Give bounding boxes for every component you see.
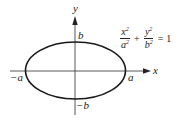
y-intercept-positive-label: b [78, 30, 84, 41]
y-intercept-negative-label: −b [76, 100, 89, 111]
x-term-fraction: x2 a2 [120, 27, 130, 50]
x-axis-label: x [153, 65, 158, 76]
y-term-fraction: y2 b2 [144, 27, 154, 50]
ellipse-curve [26, 42, 126, 99]
ellipse-equation: x2 a2 + y2 b2 = 1 [119, 27, 174, 50]
y-term-numerator: y2 [144, 27, 153, 39]
x-axis-arrow-icon [143, 68, 151, 73]
plus-sign: + [134, 34, 140, 44]
y-axis-label: y [73, 3, 78, 14]
x-term-denominator: a2 [120, 39, 130, 50]
y-term-denominator: b2 [144, 39, 154, 50]
x-intercept-negative-label: −a [10, 72, 23, 83]
x-intercept-positive-label: a [128, 72, 134, 83]
ellipse-diagram [0, 0, 184, 121]
x-term-numerator: x2 [120, 27, 129, 39]
y-axis-arrow-icon [72, 16, 77, 25]
equation-rhs: 1 [166, 34, 171, 44]
equals-sign: = [158, 34, 164, 44]
